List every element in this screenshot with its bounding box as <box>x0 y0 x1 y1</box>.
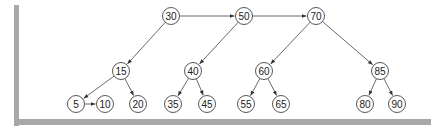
edge-40-to-45 <box>196 79 203 95</box>
node-label: 35 <box>167 99 179 110</box>
node-label: 50 <box>238 11 250 22</box>
edge-85-to-90 <box>384 79 393 96</box>
edge-70-to-85 <box>322 22 372 65</box>
edge-40-to-35 <box>178 78 189 96</box>
node-label: 10 <box>99 99 111 110</box>
node-label: 85 <box>374 66 386 77</box>
node-10: 10 <box>97 96 114 113</box>
node-label: 45 <box>201 99 213 110</box>
edge-15-to-20 <box>125 79 134 96</box>
node-label: 40 <box>187 66 199 77</box>
nodes-layer: 3050701540608551020354555658090 <box>68 8 406 113</box>
node-60: 60 <box>256 63 273 80</box>
node-85: 85 <box>372 63 389 80</box>
node-55: 55 <box>238 96 255 113</box>
edge-30-to-15 <box>127 22 165 64</box>
node-label: 15 <box>115 66 127 77</box>
node-label: 20 <box>132 99 144 110</box>
node-label: 30 <box>165 11 177 22</box>
node-45: 45 <box>199 96 216 113</box>
node-label: 5 <box>73 99 79 110</box>
node-20: 20 <box>130 96 147 113</box>
edge-70-to-60 <box>271 22 311 64</box>
node-70: 70 <box>308 8 325 25</box>
edge-15-to-5 <box>84 76 114 98</box>
node-label: 90 <box>391 99 403 110</box>
node-35: 35 <box>165 96 182 113</box>
node-label: 60 <box>258 66 270 77</box>
edge-85-to-80 <box>369 79 377 96</box>
node-label: 80 <box>359 99 371 110</box>
edge-50-to-40 <box>199 22 238 64</box>
node-80: 80 <box>357 96 374 113</box>
node-65: 65 <box>273 96 290 113</box>
edge-60-to-55 <box>251 78 260 95</box>
node-5: 5 <box>68 96 85 113</box>
node-label: 65 <box>275 99 287 110</box>
edges-layer <box>84 16 393 104</box>
node-90: 90 <box>389 96 406 113</box>
tree-diagram: 3050701540608551020354555658090 <box>0 0 431 130</box>
node-label: 55 <box>240 99 252 110</box>
node-40: 40 <box>185 63 202 80</box>
node-label: 70 <box>310 11 322 22</box>
node-50: 50 <box>236 8 253 25</box>
node-15: 15 <box>113 63 130 80</box>
node-30: 30 <box>163 8 180 25</box>
edge-60-to-65 <box>268 79 277 96</box>
